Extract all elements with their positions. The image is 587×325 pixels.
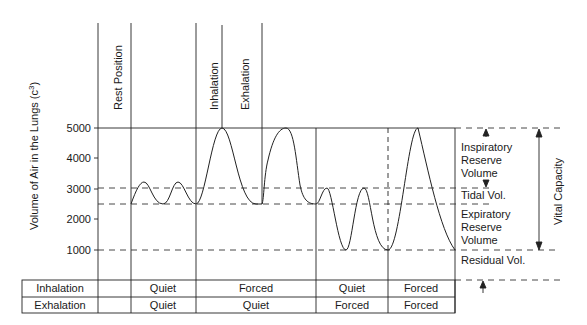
row-label-inhalation: Inhalation [36, 282, 84, 294]
y-tick-label: 1000 [67, 244, 91, 256]
table-cell: Forced [404, 282, 438, 294]
residual-volume-label: Residual Vol. [461, 254, 525, 266]
y-tick-label: 3000 [67, 183, 91, 195]
arrow-down-icon [536, 242, 542, 250]
residual-arrow [480, 281, 486, 293]
arrow-up-icon [536, 129, 542, 137]
lung-volume-curve [131, 128, 455, 250]
erv-label-line3: Volume [461, 234, 498, 246]
lung-volume-diagram: 5000 4000 3000 2000 1000 Volume of Air i… [0, 0, 587, 325]
arrow-down-icon [483, 180, 489, 187]
volume-labels: Inspiratory Reserve Volume Tidal Vol. Ex… [461, 141, 525, 266]
table-cell: Quiet [339, 282, 365, 294]
y-axis-label: Volume of Air in the Lungs (c3) [27, 82, 40, 230]
rest-position-label: Rest Position [112, 45, 124, 110]
irv-label-line1: Inspiratory [461, 141, 513, 153]
irv-label-line2: Reserve [461, 154, 502, 166]
irv-label-line3: Volume [461, 167, 498, 179]
inhalation-label: Inhalation [208, 62, 220, 110]
y-tick-label: 5000 [67, 122, 91, 134]
table-cell: Forced [404, 299, 438, 311]
table-cell: Forced [335, 299, 369, 311]
phase-lines [98, 23, 455, 313]
table-cell: Quiet [150, 282, 176, 294]
arrow-up-icon [480, 281, 486, 288]
y-ticks [94, 128, 98, 250]
vital-capacity-label: Vital Capacity [552, 157, 564, 225]
table-cell: Quiet [243, 299, 269, 311]
table-cell: Forced [239, 282, 273, 294]
y-tick-label: 4000 [67, 152, 91, 164]
vital-capacity-arrow [536, 129, 542, 250]
table-text: Inhalation Exhalation Quiet Forced Quiet… [34, 282, 438, 311]
erv-label-line2: Reserve [461, 221, 502, 233]
tidal-volume-label: Tidal Vol. [461, 189, 506, 201]
table-cell: Quiet [150, 299, 176, 311]
erv-label-line1: Expiratory [461, 208, 511, 220]
row-label-exhalation: Exhalation [34, 299, 85, 311]
arrow-up-icon [483, 129, 489, 136]
y-tick-labels: 5000 4000 3000 2000 1000 [67, 122, 91, 256]
exhalation-label: Exhalation [239, 59, 251, 110]
y-tick-label: 2000 [67, 213, 91, 225]
